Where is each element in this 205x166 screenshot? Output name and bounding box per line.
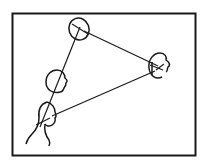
- middle-head-icon: [46, 70, 67, 93]
- connection-lines: [40, 27, 158, 127]
- frame-border: [13, 14, 196, 156]
- edge-lower-left-to-right: [52, 71, 155, 116]
- right-head-icon: [149, 53, 170, 78]
- top-head-icon: [66, 15, 92, 43]
- diagram-canvas: [0, 0, 205, 166]
- edge-top-to-right: [84, 31, 158, 66]
